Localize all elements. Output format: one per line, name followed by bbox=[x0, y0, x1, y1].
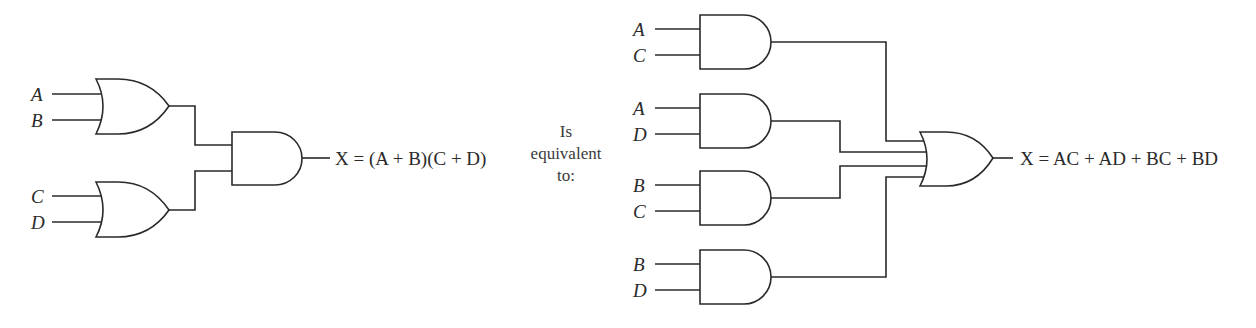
input-label-d1: D bbox=[632, 124, 647, 145]
logic-diagram: A B C D X = (A + B)(C + D) Is equivalent… bbox=[0, 0, 1256, 328]
wire-or2-to-and bbox=[169, 171, 232, 210]
input-label-c1: C bbox=[633, 45, 646, 66]
or-gate-ab bbox=[96, 79, 169, 134]
right-circuit: A C A D B C B D X = AC + AD + BC + BD bbox=[631, 15, 1218, 304]
and-gate-ad bbox=[700, 94, 771, 148]
input-label-a2: A bbox=[631, 98, 645, 119]
input-label-a: A bbox=[29, 84, 43, 105]
caption-line-2: equivalent bbox=[531, 144, 602, 163]
input-label-d2: D bbox=[632, 280, 647, 301]
left-output-expression: X = (A + B)(C + D) bbox=[335, 148, 486, 170]
and-gate-bc bbox=[700, 171, 771, 225]
input-label-d: D bbox=[30, 212, 45, 233]
input-label-c: C bbox=[31, 186, 44, 207]
wire-ac-to-or bbox=[771, 42, 925, 141]
and-gate-bd bbox=[700, 250, 771, 304]
input-label-a1: A bbox=[631, 19, 645, 40]
input-label-b2: B bbox=[633, 254, 645, 275]
and-gate-ac bbox=[700, 15, 771, 69]
caption-line-3: to: bbox=[557, 166, 575, 185]
wire-ad-to-or bbox=[771, 121, 927, 152]
wire-or1-to-and bbox=[169, 106, 232, 145]
wire-bd-to-or bbox=[771, 177, 925, 277]
input-label-c2: C bbox=[633, 201, 646, 222]
and-gate-left bbox=[232, 132, 302, 185]
equivalence-caption: Is equivalent to: bbox=[531, 122, 602, 185]
input-label-b: B bbox=[31, 110, 43, 131]
or-gate-cd bbox=[96, 182, 169, 237]
right-output-expression: X = AC + AD + BC + BD bbox=[1020, 148, 1218, 169]
input-label-b1: B bbox=[633, 175, 645, 196]
left-circuit: A B C D X = (A + B)(C + D) bbox=[29, 79, 486, 237]
wire-bc-to-or bbox=[771, 166, 927, 198]
caption-line-1: Is bbox=[560, 122, 572, 141]
or-gate-final bbox=[920, 132, 993, 186]
